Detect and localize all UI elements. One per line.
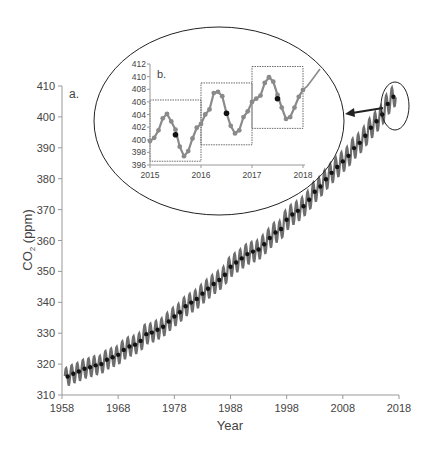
inset-monthly-marker (233, 131, 238, 136)
annual-mean-dot (329, 171, 333, 175)
y-axis-title: CO2 (ppm) (20, 209, 37, 271)
annual-mean-dot (352, 146, 356, 150)
inset-monthly-marker (194, 125, 199, 130)
annual-mean-dot (122, 348, 126, 352)
inset-x-tick-label: 2015 (141, 170, 160, 180)
annual-mean-dot (324, 177, 328, 181)
inset-monthly-marker (241, 115, 246, 120)
annual-mean-dot (155, 328, 159, 332)
inset-monthly-marker (211, 91, 216, 96)
inset-y-tick-label: 410 (132, 72, 146, 82)
y-axis-title-co: CO (20, 251, 35, 271)
annual-mean-dot (268, 236, 272, 240)
inset-monthly-marker (254, 96, 259, 101)
inset-monthly-marker (237, 128, 242, 133)
inset-x-tick-label: 2017 (243, 170, 262, 180)
x-tick-label: 1958 (50, 402, 74, 414)
inset-monthly-marker (296, 94, 301, 99)
y-tick-label: 310 (37, 389, 55, 401)
inset-x-tick-label: 2018 (294, 170, 313, 180)
annual-mean-dot (313, 189, 317, 193)
inset-monthly-marker (203, 112, 208, 117)
annual-mean-dot (296, 209, 300, 213)
annual-mean-dot (65, 374, 69, 378)
inset-monthly-marker (267, 75, 272, 80)
annual-mean-dot (144, 332, 148, 336)
inset-y-tick-label: 412 (132, 59, 146, 69)
inset-y-tick-label: 402 (132, 122, 146, 132)
inset-y-tick-label: 396 (132, 160, 146, 170)
annual-mean-dot (223, 273, 227, 277)
y-tick-label: 320 (37, 358, 55, 370)
inset-y-tick-label: 406 (132, 97, 146, 107)
annual-mean-dot (251, 249, 255, 253)
inset-ellipse (94, 27, 344, 215)
inset-monthly-marker (301, 87, 306, 92)
x-tick-label: 1988 (218, 402, 242, 414)
inset-monthly-marker (169, 119, 174, 124)
annual-mean-dot (290, 212, 294, 216)
x-axis-title: Year (217, 418, 244, 433)
annual-mean-dot (256, 247, 260, 251)
inset-monthly-marker (220, 94, 225, 99)
annual-mean-dot (150, 330, 154, 334)
inset-y-tick-label: 404 (132, 110, 146, 120)
annual-mean-dot (369, 126, 373, 130)
inset-monthly-marker (292, 105, 297, 110)
annual-mean-dot (110, 355, 114, 359)
annual-mean-dot (82, 367, 86, 371)
annual-mean-dot (200, 291, 204, 295)
inset-monthly-marker (228, 123, 233, 128)
inset-x-tick-label: 2016 (192, 170, 211, 180)
annual-mean-dot (211, 282, 215, 286)
inset-monthly-marker (186, 149, 191, 154)
inset-annual-mean-dot (224, 110, 230, 116)
annual-mean-dot (234, 260, 238, 264)
co2-chart: 3103203303403503603703803904004101958196… (0, 0, 433, 452)
inset-monthly-marker (173, 127, 178, 132)
annual-mean-dot (183, 304, 187, 308)
annual-mean-dot (178, 310, 182, 314)
x-tick-label: 2008 (331, 402, 355, 414)
y-tick-label: 340 (37, 296, 55, 308)
annual-mean-dot (262, 242, 266, 246)
x-tick-label: 1968 (106, 402, 130, 414)
inset-monthly-marker (207, 107, 212, 112)
annual-mean-dot (138, 339, 142, 343)
y-tick-label: 410 (37, 80, 55, 92)
x-tick-label: 1998 (274, 402, 298, 414)
annual-mean-dot (94, 363, 98, 367)
annual-mean-dot (88, 365, 92, 369)
annual-mean-dot (245, 252, 249, 256)
inset-monthly-marker (152, 135, 157, 140)
inset-monthly-marker (160, 116, 165, 121)
annual-mean-dot (284, 218, 288, 222)
y-tick-label: 390 (37, 142, 55, 154)
annual-mean-dot (127, 344, 131, 348)
annual-mean-dot (357, 141, 361, 145)
annual-mean-dot (374, 119, 378, 123)
annual-mean-dot (172, 314, 176, 318)
y-tick-label: 330 (37, 327, 55, 339)
annual-mean-dot (301, 204, 305, 208)
inset-monthly-marker (245, 109, 250, 114)
annual-mean-dot (279, 227, 283, 231)
annual-mean-dot (105, 358, 109, 362)
inset-monthly-marker (165, 111, 170, 116)
inset-monthly-marker (199, 122, 204, 127)
annual-mean-dot (228, 265, 232, 269)
inset-y-tick-label: 400 (132, 135, 146, 145)
annual-mean-dot (77, 369, 81, 373)
annual-mean-dot (386, 102, 390, 106)
inset-monthly-marker (271, 79, 276, 84)
y-tick-label: 380 (37, 173, 55, 185)
inset-monthly-marker (262, 81, 267, 86)
annual-mean-dot (346, 154, 350, 158)
annual-mean-dot (189, 300, 193, 304)
y-tick-label: 360 (37, 235, 55, 247)
inset-monthly-marker (177, 144, 182, 149)
annual-mean-dot (335, 165, 339, 169)
panel-label-a: a. (69, 87, 79, 101)
arrow-icon (345, 108, 383, 117)
inset-monthly-marker (216, 89, 221, 94)
